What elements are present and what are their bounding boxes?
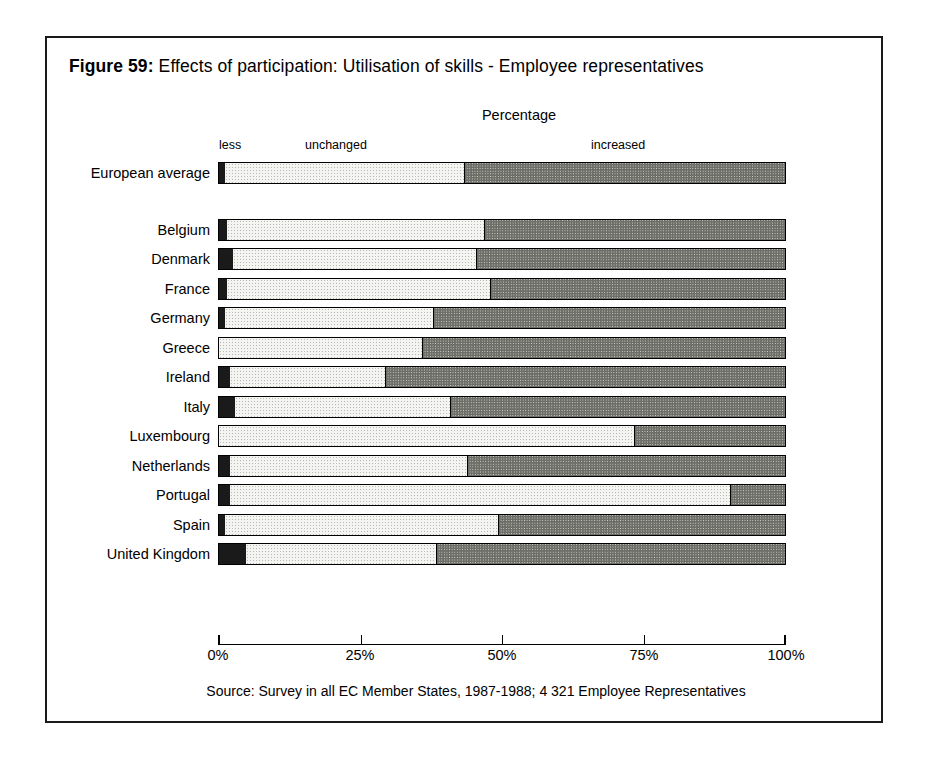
- row-label-european-average: European average: [47, 162, 210, 184]
- x-axis: [218, 635, 786, 645]
- chart-row: France: [47, 278, 881, 300]
- bar-segment-unchanged: [233, 249, 476, 269]
- legend: less unchanged increased: [47, 138, 881, 154]
- row-label-ireland: Ireland: [47, 366, 210, 388]
- stacked-bar: [218, 514, 786, 536]
- bar-segment-increased: [423, 338, 785, 358]
- axis-title: Percentage: [47, 107, 881, 123]
- row-label-portugal: Portugal: [47, 484, 210, 506]
- bar-segment-increased: [465, 163, 785, 183]
- axis-title-text: Percentage: [482, 107, 556, 123]
- row-label-greece: Greece: [47, 337, 210, 359]
- stacked-bar: [218, 366, 786, 388]
- stacked-bar: [218, 484, 786, 506]
- bar-segment-increased: [477, 249, 785, 269]
- legend-item-less: less: [219, 138, 241, 152]
- legend-item-increased: increased: [591, 138, 645, 152]
- stacked-bar: [218, 455, 786, 477]
- bar-segment-increased: [437, 544, 785, 564]
- figure-number: Figure 59:: [69, 56, 154, 76]
- stacked-bar: [218, 219, 786, 241]
- bar-segment-unchanged: [225, 163, 466, 183]
- chart-row: Luxembourg: [47, 425, 881, 447]
- bar-segment-increased: [451, 397, 785, 417]
- row-label-united-kingdom: United Kingdom: [47, 543, 210, 565]
- chart-row: Greece: [47, 337, 881, 359]
- stacked-bar: [218, 162, 786, 184]
- chart-row: Netherlands: [47, 455, 881, 477]
- x-axis-tick: [644, 635, 645, 644]
- stacked-bar: [218, 278, 786, 300]
- stacked-bar: [218, 248, 786, 270]
- bar-segment-less: [219, 220, 227, 240]
- bar-segment-increased: [485, 220, 785, 240]
- source-note-text: Source: Survey in all EC Member States, …: [206, 683, 745, 699]
- figure-frame: Figure 59: Effects of participation: Uti…: [45, 36, 883, 723]
- x-tick-label: 100%: [767, 647, 804, 663]
- bar-segment-unchanged: [227, 220, 485, 240]
- bar-segment-less: [219, 367, 230, 387]
- stacked-bar: [218, 307, 786, 329]
- chart-row: Portugal: [47, 484, 881, 506]
- row-label-germany: Germany: [47, 307, 210, 329]
- stacked-bar: [218, 425, 786, 447]
- bar-segment-unchanged: [230, 367, 386, 387]
- bar-segment-increased: [491, 279, 785, 299]
- x-axis-tick-labels: 0%25%50%75%100%: [218, 647, 786, 667]
- bar-segment-less: [219, 485, 230, 505]
- row-label-belgium: Belgium: [47, 219, 210, 241]
- stacked-bar: [218, 543, 786, 565]
- source-note: Source: Survey in all EC Member States, …: [47, 683, 881, 699]
- chart-row: Italy: [47, 396, 881, 418]
- legend-item-unchanged: unchanged: [305, 138, 367, 152]
- chart-row: United Kingdom: [47, 543, 881, 565]
- x-tick-label: 50%: [487, 647, 516, 663]
- chart-row: Belgium: [47, 219, 881, 241]
- stacked-bar: [218, 396, 786, 418]
- bar-segment-less: [219, 397, 235, 417]
- bar-segment-unchanged: [225, 308, 434, 328]
- stacked-bar: [218, 337, 786, 359]
- figure-title-text: Effects of participation: Utilisation of…: [159, 56, 704, 76]
- bar-segment-increased: [635, 426, 785, 446]
- chart-row: Denmark: [47, 248, 881, 270]
- chart-row: Spain: [47, 514, 881, 536]
- page-title: Figure 59: Effects of participation: Uti…: [69, 56, 704, 77]
- row-label-denmark: Denmark: [47, 248, 210, 270]
- bar-segment-unchanged: [230, 485, 731, 505]
- bar-segment-unchanged: [246, 544, 437, 564]
- bar-segment-increased: [468, 456, 785, 476]
- bar-segment-less: [219, 279, 227, 299]
- bar-segment-increased: [386, 367, 785, 387]
- bar-segment-unchanged: [219, 338, 423, 358]
- x-tick-label: 75%: [629, 647, 658, 663]
- x-axis-tick: [784, 635, 785, 644]
- bar-segment-unchanged: [219, 426, 635, 446]
- x-axis-tick: [219, 635, 220, 644]
- x-tick-label: 25%: [345, 647, 374, 663]
- x-tick-label: 0%: [208, 647, 229, 663]
- bar-segment-unchanged: [227, 279, 490, 299]
- chart-row: Ireland: [47, 366, 881, 388]
- row-label-france: France: [47, 278, 210, 300]
- row-label-luxembourg: Luxembourg: [47, 425, 210, 447]
- bar-segment-unchanged: [225, 515, 500, 535]
- row-label-spain: Spain: [47, 514, 210, 536]
- bar-segment-less: [219, 544, 246, 564]
- bar-segment-increased: [731, 485, 785, 505]
- bar-segment-increased: [434, 308, 785, 328]
- bar-segment-less: [219, 456, 230, 476]
- x-axis-tick: [502, 635, 503, 644]
- row-label-italy: Italy: [47, 396, 210, 418]
- x-axis-tick: [361, 635, 362, 644]
- chart-row: European average: [47, 162, 881, 184]
- bar-segment-unchanged: [235, 397, 451, 417]
- bar-segment-increased: [499, 515, 785, 535]
- bar-segment-less: [219, 249, 233, 269]
- chart-row: Germany: [47, 307, 881, 329]
- bar-segment-unchanged: [230, 456, 468, 476]
- row-label-netherlands: Netherlands: [47, 455, 210, 477]
